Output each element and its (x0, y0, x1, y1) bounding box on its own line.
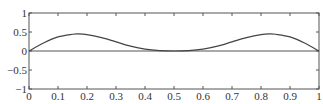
x-tick-label: 0.2 (80, 90, 94, 102)
x-tick-label: 0.1 (51, 90, 65, 102)
y-tick-label: −1 (15, 83, 27, 95)
x-tick-label: 0.8 (254, 90, 268, 102)
x-tick-label: 0.7 (225, 90, 239, 102)
y-tick-label: 0.5 (13, 26, 27, 38)
y-tick-label: 1 (22, 7, 28, 19)
x-tick-label: 0.5 (167, 90, 181, 102)
y-axis-tick-labels: 10.50−0.5−1 (7, 7, 27, 95)
line-chart: 00.10.20.30.40.50.60.70.80.91 10.50−0.5−… (0, 0, 323, 104)
y-tick-label: 0 (22, 45, 28, 57)
x-tick-label: 0.3 (109, 90, 123, 102)
x-tick-label: 0.6 (196, 90, 210, 102)
data-series-curve (29, 34, 319, 51)
x-tick-label: 0.4 (138, 90, 152, 102)
x-tick-label: 1 (316, 90, 322, 102)
x-tick-label: 0.9 (283, 90, 297, 102)
plot-area (29, 13, 319, 89)
x-tick-label: 0 (26, 90, 32, 102)
y-tick-label: −0.5 (7, 64, 27, 76)
x-axis-tick-labels: 00.10.20.30.40.50.60.70.80.91 (26, 90, 322, 102)
